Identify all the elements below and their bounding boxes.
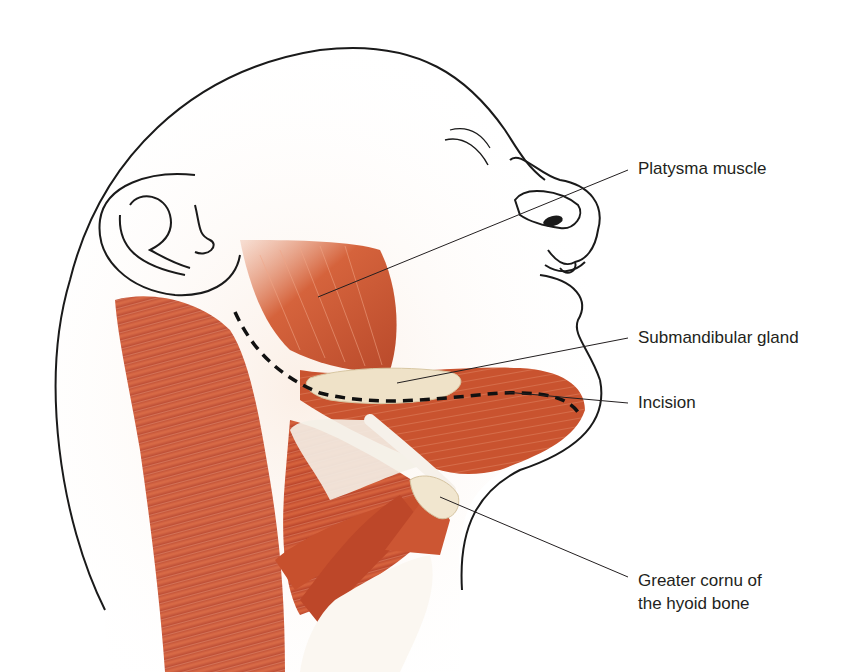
label-hyoid-line1: Greater cornu of: [638, 570, 762, 592]
label-incision: Incision: [638, 392, 696, 414]
label-platysma-muscle: Platysma muscle: [638, 158, 766, 180]
label-submandibular-gland: Submandibular gland: [638, 327, 799, 349]
label-hyoid-line2: the hyoid bone: [638, 593, 750, 615]
leader-line-hyoid: [440, 497, 628, 577]
